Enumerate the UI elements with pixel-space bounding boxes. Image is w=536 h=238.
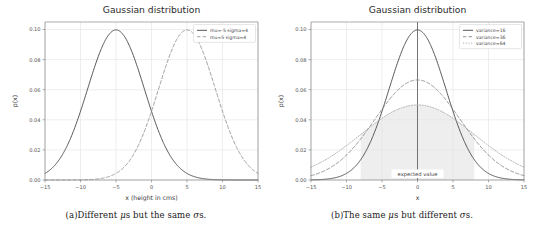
- x-axis-label: x: [416, 194, 420, 201]
- chart-b-container: Gaussian distribution−15−10−50510150.000…: [274, 0, 530, 208]
- x-tick-label-6: 15: [255, 184, 261, 190]
- y-tick-label-5: 0.10: [295, 26, 306, 32]
- x-tick-label-0: −15: [306, 184, 317, 190]
- legend-label-0: mu=-5 sigma=4: [210, 28, 248, 33]
- y-tick-label-2: 0.04: [295, 117, 306, 123]
- y-tick-label-1: 0.02: [29, 147, 40, 153]
- caption-b: (b)The same μs but different σs.: [274, 210, 530, 220]
- y-tick-label-2: 0.04: [29, 117, 40, 123]
- y-tick-label-3: 0.06: [295, 87, 306, 93]
- x-tick-label-1: −10: [75, 184, 86, 190]
- caption-b-text-3: s.: [466, 210, 473, 220]
- caption-a-text-3: s.: [199, 210, 206, 220]
- y-tick-label-1: 0.02: [295, 147, 306, 153]
- y-tick-label-4: 0.08: [295, 57, 306, 63]
- figure-panel-b: Gaussian distribution−15−10−50510150.000…: [274, 0, 530, 208]
- legend-label-1: variance=36: [476, 35, 506, 40]
- caption-b-text-2: s but different: [394, 210, 460, 220]
- chart-a-container: Gaussian distribution−15−10−50510150.000…: [8, 0, 264, 208]
- caption-a-prefix: (a): [66, 210, 78, 220]
- y-tick-label-0: 0.00: [295, 177, 306, 183]
- chart-a: Gaussian distribution−15−10−50510150.000…: [8, 0, 264, 208]
- caption-a-text-1: Different: [78, 210, 121, 220]
- x-tick-label-5: 10: [219, 184, 225, 190]
- caption-a-text-2: s but the same: [126, 210, 193, 220]
- figure-sheet: Gaussian distribution−15−10−50510150.000…: [0, 0, 536, 238]
- x-tick-label-0: −15: [40, 184, 51, 190]
- y-tick-label-0: 0.00: [29, 177, 40, 183]
- x-tick-label-2: −5: [378, 184, 386, 190]
- legend-label-1: mu=5 sigma=4: [210, 35, 246, 40]
- chart-title: Gaussian distribution: [103, 4, 201, 15]
- x-tick-label-3: 0: [150, 184, 153, 190]
- caption-a: (a)Different μs but the same σs.: [8, 210, 264, 220]
- figure-panel-a: Gaussian distribution−15−10−50510150.000…: [8, 0, 264, 208]
- caption-b-text-1: The same: [343, 210, 388, 220]
- caption-b-prefix: (b): [331, 210, 343, 220]
- y-axis-label: p(x): [277, 95, 285, 107]
- expected-value-annotation: expected value: [398, 171, 438, 178]
- chart-title: Gaussian distribution: [369, 4, 467, 15]
- y-tick-label-4: 0.08: [29, 57, 40, 63]
- x-tick-label-4: 5: [451, 184, 454, 190]
- x-tick-label-5: 10: [485, 184, 491, 190]
- x-tick-label-3: 0: [416, 184, 419, 190]
- y-tick-label-3: 0.06: [29, 87, 40, 93]
- legend-label-2: variance=64: [476, 41, 506, 46]
- x-tick-label-1: −10: [341, 184, 352, 190]
- x-tick-label-2: −5: [112, 184, 120, 190]
- x-tick-label-6: 15: [521, 184, 527, 190]
- x-tick-label-4: 5: [185, 184, 188, 190]
- y-tick-label-5: 0.10: [29, 26, 40, 32]
- chart-b: Gaussian distribution−15−10−50510150.000…: [274, 0, 530, 208]
- legend-label-0: variance=16: [476, 28, 506, 33]
- y-axis-label: p(x): [11, 95, 19, 107]
- x-axis-label: x (height in cms): [125, 194, 177, 202]
